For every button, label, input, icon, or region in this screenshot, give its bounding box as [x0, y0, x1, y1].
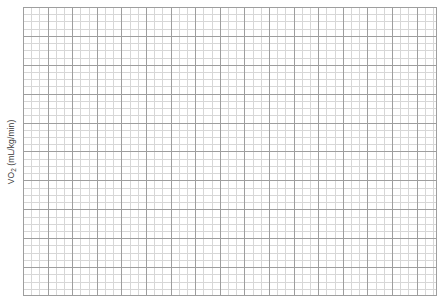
y-axis-label: VO2 (mL/kg/min): [0, 0, 22, 303]
y-axis-label-units: (mL/kg/min): [6, 119, 16, 167]
plot-grid-area[interactable]: [23, 7, 437, 296]
y-axis-label-text: VO2 (mL/kg/min): [6, 119, 16, 184]
y-axis-label-subscript: 2: [10, 168, 17, 172]
chart-root: VO2 (mL/kg/min): [0, 0, 443, 303]
y-axis-label-prefix: VO: [6, 171, 16, 183]
